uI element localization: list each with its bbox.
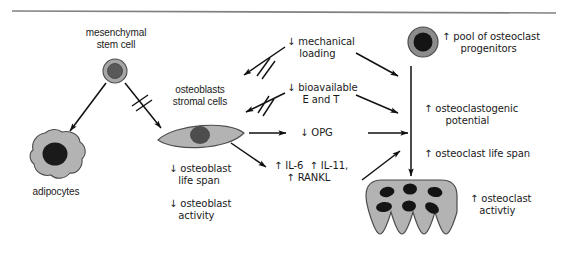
- label-adipocytes: adipocytes: [12, 186, 100, 198]
- label-osteoblast-life-span: ↓ osteoblast life span: [169, 163, 265, 186]
- label-osteoclast-life-span: ↑ osteoclast life span: [424, 148, 556, 160]
- osteoclast-glyph: [366, 180, 457, 234]
- label-opg: ↓ OPG: [300, 127, 356, 139]
- label-mechanical-loading: ↓ mechanical loading: [287, 36, 371, 59]
- label-osteoblast-activity: ↓ osteoblast activity: [169, 198, 265, 221]
- inhibition-mark-mechanical: [257, 58, 275, 79]
- label-il6-il11-rankl: ↑ IL-6 ↑ IL-11, ↑ RANKL: [274, 160, 366, 183]
- adipocyte-glyph: [30, 129, 85, 178]
- arrow-stem-to-adipocyte: [70, 83, 106, 131]
- label-osteoclast-activity: ↑ osteoclast activtiy: [470, 193, 562, 216]
- arrow-il6-to-right: [362, 151, 400, 180]
- label-osteoclastogenic-potential: ↑ osteoclastogenic potential: [424, 103, 546, 126]
- label-bioavailable-e-and-t: ↓ bioavailable E and T: [287, 82, 371, 105]
- label-osteoblasts-stromal-cells: osteoblasts stromal cells: [154, 84, 246, 107]
- label-pool-of-osteoclast-progenitors: ↑ pool of osteoclast progenitors: [442, 31, 560, 54]
- inhibition-mark-stem-osteoblast: [132, 95, 152, 111]
- mesenchymal-stem-cell-glyph: [103, 59, 127, 83]
- label-mesenchymal-stem-cell: mesenchymal stem cell: [70, 27, 162, 50]
- osteoclast-progenitor-glyph: [408, 27, 438, 57]
- top-rule: [12, 11, 556, 13]
- arrow-mechanical-to-osteoblast: [244, 47, 285, 75]
- pathway-figure: mesenchymal stem cell adipocytes osteobl…: [0, 0, 565, 258]
- osteoblast-glyph: [158, 125, 244, 147]
